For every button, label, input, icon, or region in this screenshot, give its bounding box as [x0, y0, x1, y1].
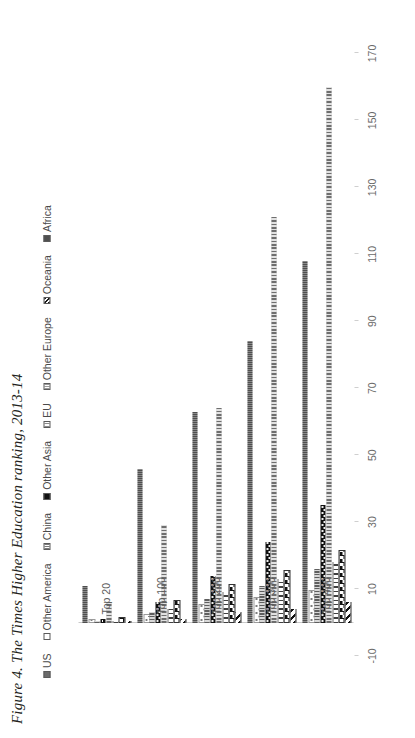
tick-mark — [354, 52, 358, 53]
legend-label: EU — [40, 403, 52, 418]
tick-mark — [354, 387, 358, 388]
bar-track — [243, 20, 298, 656]
bar-us-top-400[interactable] — [302, 261, 308, 623]
bar-us-top-20[interactable] — [82, 586, 88, 623]
legend-swatch-africa-icon — [43, 235, 50, 242]
legend-label: US — [40, 653, 52, 668]
bar-eu-top-300[interactable] — [271, 218, 277, 623]
tick-label-150: 150 — [365, 110, 377, 130]
plot-area: Top 20Top 100Top 200Top 300Top 400 17015… — [78, 20, 353, 656]
legend-swatch-otherasia-icon — [43, 493, 50, 500]
bar-group-top-100 — [133, 20, 188, 656]
legend-item-us[interactable]: US — [40, 653, 52, 678]
bar-group-top-20 — [78, 20, 133, 656]
tick-label-50: 50 — [365, 445, 377, 465]
legend-label: Other Asia — [40, 441, 52, 490]
tick-mark — [354, 454, 358, 455]
legend-swatch-eu-icon — [43, 421, 50, 428]
bar-otherasia-top-20[interactable] — [100, 619, 106, 622]
bar-group-top-300 — [243, 20, 298, 656]
legend-swatch-otheramerica-icon — [43, 633, 50, 640]
tick-label-90: 90 — [365, 311, 377, 331]
legend-item-china[interactable]: China — [40, 513, 52, 550]
bar-group-top-400 — [298, 20, 353, 656]
tick-mark — [354, 320, 358, 321]
bar-us-top-200[interactable] — [192, 412, 198, 623]
bar-africa-top-200[interactable] — [234, 613, 242, 623]
legend-label: China — [40, 513, 52, 540]
tick-mark — [354, 119, 358, 120]
legend-label: Africa — [40, 205, 52, 232]
legend-label: Other America — [40, 563, 52, 630]
category-label-top-200: Top 200 — [209, 577, 221, 614]
legend-label: Oceania — [40, 255, 52, 294]
tick-mark — [354, 588, 358, 589]
legend-swatch-china-icon — [43, 543, 50, 550]
tick-mark — [354, 521, 358, 522]
bar-africa-top-100[interactable] — [179, 619, 187, 622]
bar-us-top-300[interactable] — [247, 341, 253, 622]
chart-legend: USOther AmericaChinaOther AsiaEUOther Eu… — [40, 205, 52, 678]
bar-group-top-200 — [188, 20, 243, 656]
bar-track — [298, 20, 353, 656]
legend-swatch-othereurope-icon — [43, 383, 50, 390]
bar-africa-top-20[interactable] — [124, 621, 132, 622]
legend-item-otherasia[interactable]: Other Asia — [40, 441, 52, 500]
figure-container: Figure 4. The Times Higher Education ran… — [0, 0, 415, 738]
category-label-top-400: Top 400 — [319, 577, 331, 614]
tick-label-170: 170 — [365, 43, 377, 63]
rotated-figure-canvas: Figure 4. The Times Higher Education ran… — [0, 0, 415, 738]
tick-label-110: 110 — [365, 244, 377, 264]
legend-item-othereurope[interactable]: Other Europe — [40, 317, 52, 390]
tick-label-30: 30 — [365, 512, 377, 532]
bar-track — [133, 20, 188, 656]
bar-track — [78, 20, 133, 656]
figure-title: Figure 4. The Times Higher Education ran… — [8, 374, 25, 724]
category-label-top-300: Top 300 — [264, 577, 276, 614]
legend-swatch-us-icon — [43, 671, 50, 678]
tick-label-130: 130 — [365, 177, 377, 197]
tick-mark — [354, 186, 358, 187]
bar-track — [188, 20, 243, 656]
bar-china-top-20[interactable] — [94, 621, 100, 622]
bar-eu-top-400[interactable] — [326, 87, 332, 623]
category-label-top-100: Top 100 — [154, 577, 166, 614]
category-label-top-20: Top 20 — [99, 583, 111, 615]
legend-item-eu[interactable]: EU — [40, 403, 52, 428]
tick-mark — [354, 655, 358, 656]
tick-mark — [354, 253, 358, 254]
tick-label-70: 70 — [365, 378, 377, 398]
tick-label-10: 10 — [365, 579, 377, 599]
legend-item-africa[interactable]: Africa — [40, 205, 52, 242]
legend-swatch-oceania-icon — [43, 297, 50, 304]
legend-item-oceania[interactable]: Oceania — [40, 255, 52, 304]
legend-item-otheramerica[interactable]: Other America — [40, 563, 52, 640]
bar-africa-top-400[interactable] — [344, 602, 352, 622]
bar-africa-top-300[interactable] — [289, 609, 297, 622]
legend-label: Other Europe — [40, 317, 52, 380]
bar-us-top-100[interactable] — [137, 469, 143, 623]
tick-label-neg10: -10 — [365, 646, 377, 666]
